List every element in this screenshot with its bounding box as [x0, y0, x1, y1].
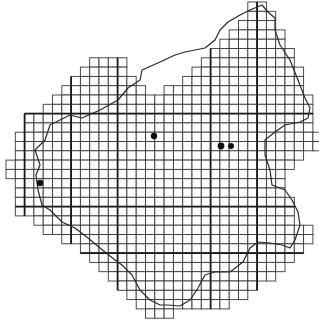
grid-cell	[80, 244, 89, 253]
grid-cell	[183, 188, 192, 197]
grid-cell	[108, 225, 117, 234]
grid-cell	[229, 39, 238, 48]
grid-cell	[183, 104, 192, 113]
grid-cell	[99, 114, 108, 123]
grid-cell	[118, 272, 127, 281]
grid-cell	[99, 142, 108, 151]
grid-cell	[257, 225, 266, 234]
grid-cell	[192, 216, 201, 225]
grid-cell	[43, 188, 52, 197]
grid-cell	[248, 262, 257, 271]
grid-cell	[173, 207, 182, 216]
grid-cell	[173, 262, 182, 271]
grid-cell	[25, 151, 34, 160]
grid-cell	[239, 67, 248, 76]
grid-cell	[220, 235, 229, 244]
grid-cell	[146, 104, 155, 113]
grid-cell	[266, 21, 275, 30]
grid-cell	[146, 262, 155, 271]
grid-cell	[80, 123, 89, 132]
grid-cell	[183, 142, 192, 151]
grid-cell	[285, 49, 294, 58]
grid-cell	[285, 104, 294, 113]
grid-cell	[108, 132, 117, 141]
grid-cell	[43, 197, 52, 206]
grid-cell	[71, 95, 80, 104]
grid-cell	[173, 169, 182, 178]
grid-cell	[90, 76, 99, 85]
grid-cell	[136, 132, 145, 141]
grid-cell	[192, 225, 201, 234]
grid-cell	[118, 179, 127, 188]
grid-cell	[90, 114, 99, 123]
grid-cell	[192, 86, 201, 95]
grid-cell	[192, 104, 201, 113]
grid-cell	[257, 104, 266, 113]
grid-cell	[220, 114, 229, 123]
grid-cell	[239, 179, 248, 188]
grid-cell	[108, 104, 117, 113]
grid-cell	[276, 58, 285, 67]
grid-cell	[266, 104, 275, 113]
grid-cell	[90, 197, 99, 206]
grid-cell	[248, 132, 257, 141]
grid-cell	[211, 123, 220, 132]
grid-cell	[192, 300, 201, 309]
grid-cell	[220, 225, 229, 234]
grid-cell	[294, 123, 303, 132]
grid-cell	[211, 225, 220, 234]
grid-cell	[276, 151, 285, 160]
grid-cell	[266, 39, 275, 48]
grid-cell	[127, 197, 136, 206]
grid-cell	[229, 160, 238, 169]
grid-cell	[248, 207, 257, 216]
grid-cell	[173, 216, 182, 225]
grid-cell	[294, 95, 303, 104]
grid-cell	[118, 123, 127, 132]
grid-cell	[146, 281, 155, 290]
grid-cell	[146, 300, 155, 309]
grid-cell	[183, 253, 192, 262]
grid-cell	[173, 104, 182, 113]
grid-cell	[192, 160, 201, 169]
grid-cell	[285, 207, 294, 216]
grid-cell	[71, 235, 80, 244]
grid-cell	[108, 272, 117, 281]
grid-cell	[220, 123, 229, 132]
grid-cell	[108, 142, 117, 151]
grid-cell	[127, 142, 136, 151]
grid-cell	[183, 272, 192, 281]
grid-cell	[146, 188, 155, 197]
grid-cell	[155, 309, 164, 318]
grid-cell	[155, 179, 164, 188]
grid-cell	[43, 160, 52, 169]
grid-cell	[201, 76, 210, 85]
grid-cell	[257, 11, 266, 20]
grid-cell	[155, 272, 164, 281]
grid-cell	[146, 142, 155, 151]
grid-cell	[285, 225, 294, 234]
grid-cell	[155, 123, 164, 132]
grid-cell	[136, 86, 145, 95]
grid-cell	[211, 169, 220, 178]
grid-cell	[127, 160, 136, 169]
grid-cell	[62, 160, 71, 169]
grid-cell	[229, 179, 238, 188]
grid-cell	[211, 216, 220, 225]
grid-cell	[127, 151, 136, 160]
grid-cells	[6, 2, 319, 318]
grid-cell	[164, 160, 173, 169]
grid-cell	[80, 197, 89, 206]
grid-cell	[118, 169, 127, 178]
grid-cell	[173, 123, 182, 132]
grid-cell	[248, 95, 257, 104]
grid-cell	[201, 86, 210, 95]
grid-cell	[155, 142, 164, 151]
grid-cell	[62, 104, 71, 113]
grid-cell	[108, 179, 117, 188]
grid-cell	[136, 262, 145, 271]
grid-cell	[229, 216, 238, 225]
grid-cell	[211, 207, 220, 216]
grid-cell	[192, 114, 201, 123]
grid-cell	[118, 235, 127, 244]
